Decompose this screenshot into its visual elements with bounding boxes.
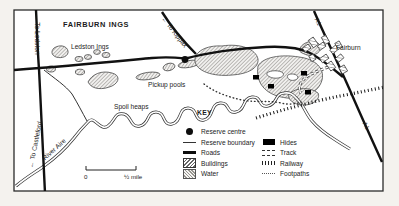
map-figure: FAIRBURN INGS Ledston Ings Pickup pools … [0,0,399,206]
hides-icon [261,139,276,145]
reserve-boundary-icon [182,142,197,143]
track-icon [261,150,276,156]
legend-label: Railway [280,160,303,167]
railway-icon [261,161,276,165]
legend-label: Buildings [201,160,228,167]
legend-label: Reserve boundary [201,139,255,146]
footpaths-icon [261,173,276,174]
legend-row-hides: Hides [261,137,297,147]
legend-label: Reserve centre [201,128,246,135]
legend-row-track: Track [261,148,296,158]
legend-row-water: Water [182,169,218,179]
label-pickup-pools: Pickup pools [148,81,185,88]
label-to-ledston: ← To Ledston [34,14,41,55]
label-ledston-ings: Ledston Ings [71,43,109,50]
scale-start-label: 0 [84,173,87,180]
legend-row-buildings: Buildings [182,158,228,168]
roads-icon [182,151,197,154]
buildings-icon [182,158,197,168]
legend-label: Water [201,170,218,177]
scale-end-label: ½ mile [124,173,142,180]
legend-label: Hides [280,139,297,146]
legend-label: Footpaths [280,170,309,177]
legend-row-reserve-boundary: Reserve boundary [182,137,255,147]
legend-row-roads: Roads [182,148,220,158]
legend-row-reserve-centre: Reserve centre [182,126,246,136]
legend-label: Track [280,149,296,156]
water-icon [182,169,197,179]
label-spoil-heaps: Spoil heaps [114,103,148,110]
reserve-centre-icon [182,128,197,135]
legend-row-railway: Railway [261,158,303,168]
label-fairburn: Fairburn [336,44,361,51]
legend-label: Roads [201,149,220,156]
legend-title: KEY [197,109,212,116]
legend-row-footpaths: Footpaths [261,169,309,179]
map-title: FAIRBURN INGS [63,21,129,28]
reserve-centre-dot [182,56,189,63]
